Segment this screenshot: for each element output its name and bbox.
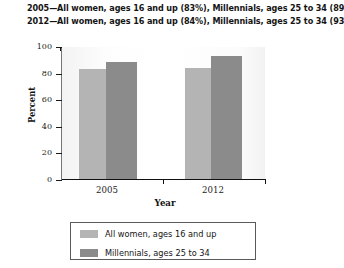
y-tick-label-80: 80 — [12, 69, 52, 78]
legend-swatch-icon-dark — [80, 249, 98, 257]
bars-layer — [62, 47, 265, 179]
bar-chart-figure: 2005—All women, ages 16 and up (83%), Mi… — [0, 0, 344, 268]
bar-2005-all-women — [79, 69, 106, 179]
x-axis-line — [62, 179, 266, 180]
y-axis-title: Percent — [27, 87, 37, 123]
plot-region: Percent 100 80 60 40 20 0 2005 2012 Year — [0, 38, 344, 188]
bar-2012-all-women — [185, 68, 211, 179]
x-tick-label-2005: 2005 — [77, 185, 137, 195]
y-tick-0 — [56, 180, 62, 181]
x-axis-title: Year — [0, 198, 330, 208]
chart-annotations: 2005—All women, ages 16 and up (83%), Mi… — [0, 2, 344, 28]
legend-item-millennials: Millennials, ages 25 to 34 — [80, 244, 255, 261]
x-tick-right — [265, 179, 266, 184]
annotation-line-2012: 2012—All women, ages 16 and up (84%), Mi… — [0, 15, 344, 28]
legend-label-millennials: Millennials, ages 25 to 34 — [105, 248, 210, 258]
chart-legend: All women, ages 16 and up Millennials, a… — [70, 222, 256, 260]
legend-swatch-icon-light — [80, 230, 98, 238]
legend-label-all-women: All women, ages 16 and up — [105, 229, 216, 239]
y-tick-label-60: 60 — [12, 95, 52, 104]
y-tick-label-40: 40 — [12, 122, 52, 131]
y-tick-label-20: 20 — [12, 148, 52, 157]
bar-2005-millennials — [106, 62, 137, 179]
y-tick-label-100: 100 — [12, 42, 52, 51]
x-tick-label-2012: 2012 — [183, 185, 243, 195]
x-tick-middle — [163, 179, 164, 184]
y-tick-label-0: 0 — [12, 175, 52, 184]
annotation-line-2005: 2005—All women, ages 16 and up (83%), Mi… — [0, 2, 344, 15]
bar-2012-millennials — [211, 56, 242, 179]
legend-item-all-women: All women, ages 16 and up — [80, 225, 255, 242]
